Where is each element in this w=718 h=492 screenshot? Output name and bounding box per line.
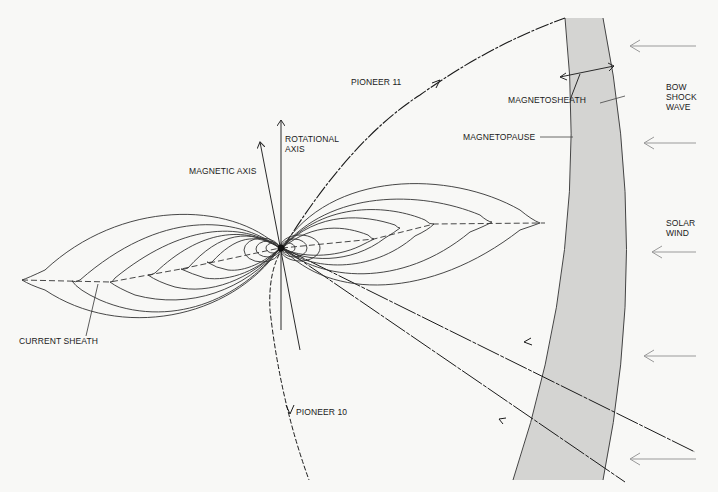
pioneer-11-inbound [283,248,695,452]
label-magnetosheath: MAGNETOSHEATH [508,95,586,105]
label-rotational-axis-line1: ROTATIONAL [285,134,339,144]
magnetosphere-diagram: PIONEER 11 PIONEER 10 ROTATIONAL AXIS MA… [0,0,718,492]
label-rotational-axis-line2: AXIS [285,144,339,154]
label-pioneer-11: PIONEER 11 [351,77,401,87]
diagram-canvas [0,0,718,492]
pioneer-10-inbound-arrow [499,418,506,424]
label-bow-line1: BOW [666,82,697,92]
pioneer-10-trajectory [270,248,309,480]
current-sheath-right [282,223,545,248]
label-solar-line1: SOLAR [666,218,695,228]
label-pioneer-10: PIONEER 10 [296,407,347,417]
label-bow-line3: WAVE [666,102,697,112]
label-solar-wind: SOLAR WIND [666,218,695,238]
label-bow-shock-wave: BOW SHOCK WAVE [666,82,697,112]
field-lines-left [22,214,280,317]
label-bow-line2: SHOCK [666,92,697,102]
label-magnetic-axis: MAGNETIC AXIS [189,166,256,176]
label-rotational-axis: ROTATIONAL AXIS [285,134,339,154]
field-lines-right [280,184,540,285]
label-current-sheath: CURRENT SHEATH [19,336,98,346]
pioneer-11-inbound-arrow [524,338,532,345]
label-magnetopause: MAGNETOPAUSE [463,132,535,142]
label-solar-line2: WIND [666,228,695,238]
jupiter [278,245,285,252]
